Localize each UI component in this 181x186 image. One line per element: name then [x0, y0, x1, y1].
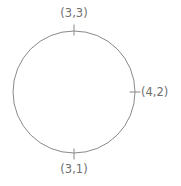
circle-diagram-figure: (3,3) (4,2) (3,1)	[0, 0, 181, 186]
point-label-right: (4,2)	[141, 85, 168, 99]
circle-outline	[13, 31, 135, 153]
point-label-bottom: (3,1)	[56, 162, 92, 176]
point-label-top: (3,3)	[56, 6, 92, 20]
